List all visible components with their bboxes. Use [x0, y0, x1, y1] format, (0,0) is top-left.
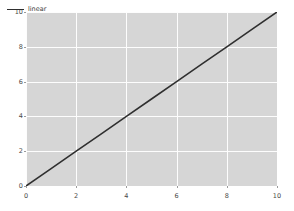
x-tick-label: 8 — [225, 193, 229, 200]
x-tick-label: 6 — [175, 193, 179, 200]
figure: 0246810 0246810 linear — [0, 0, 294, 211]
x-axis-tick-labels: 0246810 — [0, 0, 294, 211]
legend: linear — [4, 5, 49, 14]
x-tick-label: 4 — [124, 193, 128, 200]
legend-label: linear — [28, 6, 46, 13]
x-tick-label: 10 — [273, 193, 281, 200]
legend-line-swatch — [7, 9, 24, 10]
x-tick-label: 0 — [24, 193, 28, 200]
x-tick-label: 2 — [74, 193, 78, 200]
